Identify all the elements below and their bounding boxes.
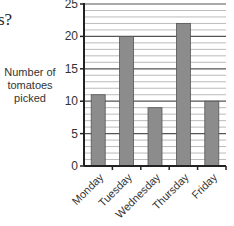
y-tick-label: 25 bbox=[65, 0, 79, 11]
bar-monday bbox=[91, 95, 105, 166]
y-tick-label: 5 bbox=[71, 127, 78, 141]
bar-wednesday bbox=[148, 108, 162, 166]
bar-chart: MondayTuesdayWednesdayThursdayFriday0510… bbox=[0, 0, 234, 226]
y-tick-label: 20 bbox=[65, 29, 79, 43]
y-tick-label: 15 bbox=[65, 62, 79, 76]
y-tick-label: 10 bbox=[65, 94, 79, 108]
x-tick-label: Friday bbox=[189, 171, 219, 201]
bar-thursday bbox=[176, 23, 190, 166]
bar-tuesday bbox=[120, 36, 134, 166]
y-tick-label: 0 bbox=[71, 159, 78, 173]
bar-friday bbox=[205, 101, 219, 166]
